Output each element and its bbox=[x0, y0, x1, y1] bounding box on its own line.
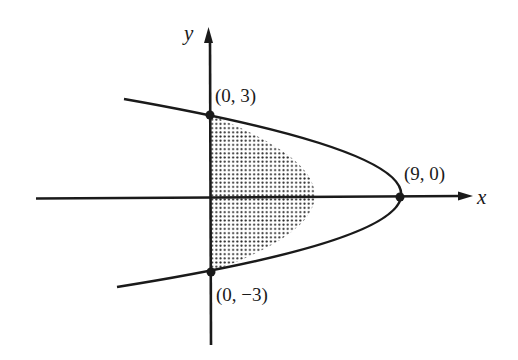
point-0-3-marker bbox=[206, 111, 215, 120]
x-axis-arrow-icon bbox=[458, 192, 473, 201]
point-0-neg3-marker bbox=[207, 268, 216, 277]
point-9-0-marker bbox=[396, 193, 405, 202]
y-axis bbox=[210, 40, 211, 345]
y-axis-label: y bbox=[182, 21, 194, 45]
shaded-region bbox=[210, 115, 315, 272]
x-axis-label: x bbox=[476, 185, 487, 209]
point-0-neg3-label: (0, −3) bbox=[216, 284, 268, 306]
y-axis-arrow-icon bbox=[204, 27, 213, 43]
point-9-0-label: (9, 0) bbox=[404, 163, 445, 185]
parabola-diagram: y x (0, 3) (9, 0) (0, −3) bbox=[0, 0, 518, 360]
point-0-3-label: (0, 3) bbox=[215, 85, 256, 107]
